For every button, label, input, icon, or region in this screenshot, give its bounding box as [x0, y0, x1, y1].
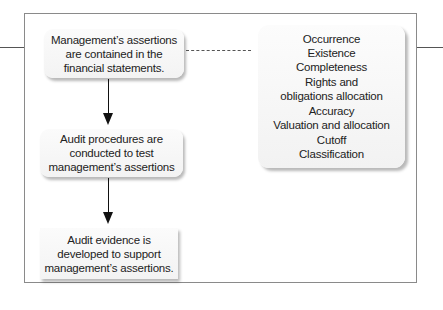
box-line: are contained in the [65, 47, 162, 61]
arrow-shaft-2 [108, 178, 110, 214]
box-line: financial statements. [64, 61, 165, 75]
dashed-connector [186, 50, 251, 51]
box-line: management’s assertions. [44, 261, 173, 275]
left-connector-line [0, 47, 24, 48]
assertion-item: Rights and [305, 75, 358, 89]
arrow-down-icon [103, 212, 113, 224]
box-line: management’s assertions [48, 160, 174, 174]
assertion-item: Accuracy [309, 104, 355, 118]
assertion-list-box: Occurrence Existence Completeness Rights… [258, 25, 405, 168]
assertion-item: Classification [299, 147, 364, 161]
assertion-item: Cutoff [317, 133, 346, 147]
assertions-box: Management’s assertions are contained in… [44, 29, 184, 78]
assertion-item: obligations allocation [280, 89, 382, 103]
assertion-item: Existence [307, 46, 355, 60]
box-line: Audit evidence is [67, 233, 151, 247]
procedures-box: Audit procedures are conducted to test m… [40, 129, 183, 177]
assertion-item: Occurrence [303, 32, 360, 46]
box-line: Audit procedures are [60, 132, 163, 146]
assertion-item: Completeness [296, 60, 367, 74]
arrow-shaft-1 [108, 79, 110, 115]
arrow-down-icon [103, 113, 113, 125]
box-line: Management’s assertions [51, 33, 177, 47]
box-line: conducted to test [69, 146, 153, 160]
right-connector-line [417, 47, 443, 48]
assertion-item: Valuation and allocation [273, 118, 389, 132]
evidence-box: Audit evidence is developed to support m… [40, 228, 178, 279]
box-line: developed to support [57, 247, 160, 261]
